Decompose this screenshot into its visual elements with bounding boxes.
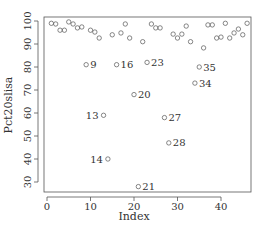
data-point [236,27,240,31]
point-label: 20 [138,89,151,100]
data-point [93,30,97,34]
data-point [154,26,158,30]
y-tick-label: 90 [22,38,33,51]
data-point [158,26,162,30]
point-label: 14 [90,154,103,165]
data-point [114,62,118,66]
data-point [67,20,71,24]
y-tick-label: 30 [22,176,33,189]
plot-frame [44,17,251,192]
y-tick-label: 40 [22,153,33,166]
point-label: 35 [203,62,216,73]
data-point [145,60,149,64]
data-point [171,32,175,36]
data-point [162,115,166,119]
y-tick-label: 80 [22,61,33,74]
scatter-chart: 30405060708090100 010203040 913141620212… [0,0,263,232]
data-point [71,22,75,26]
y-tick-label: 60 [22,107,33,120]
data-point [241,33,245,37]
y-axis-label: Pct20slisa [2,76,15,133]
point-label: 16 [121,59,134,70]
data-point [132,92,136,96]
data-point [75,26,79,30]
data-point [58,28,62,32]
data-point [149,22,153,26]
data-point [119,31,123,35]
x-tick-label: 40 [215,201,228,212]
data-point [201,46,205,50]
data-point [62,28,66,32]
point-label: 9 [90,59,96,70]
data-point [188,40,192,44]
data-point [210,23,214,27]
point-label: 27 [168,112,181,123]
point-label: 23 [151,57,164,68]
y-tick-label: 70 [22,84,33,97]
data-point [101,113,105,117]
point-label: 21 [142,181,155,192]
data-point [141,40,145,44]
data-point [84,62,88,66]
x-axis-label: Index [118,210,150,223]
data-point [197,65,201,69]
data-point [88,28,92,32]
point-label: 13 [86,110,99,121]
y-axis: 30405060708090100 [22,11,38,188]
data-point [167,141,171,145]
data-point [184,24,188,28]
data-point [232,31,236,35]
x-tick-label: 10 [84,201,97,212]
data-point [97,36,101,40]
data-point [223,21,227,25]
data-point [136,184,140,188]
data-point [127,36,131,40]
data-point [80,25,84,29]
point-label: 28 [173,137,186,148]
data-point [214,36,218,40]
data-point [180,32,184,36]
data-point [193,81,197,85]
x-tick-label: 0 [44,201,50,212]
y-tick-label: 100 [22,11,33,30]
data-point [123,22,127,26]
data-point [245,21,249,25]
x-tick-label: 30 [171,201,184,212]
data-point [54,22,58,26]
data-points: 913141620212327283435 [49,20,249,192]
data-point [106,157,110,161]
data-point [206,23,210,27]
data-point [110,33,114,37]
data-point [49,21,53,25]
data-point [175,36,179,40]
point-label: 34 [199,78,212,89]
data-point [219,35,223,39]
data-point [228,36,232,40]
y-tick-label: 50 [22,130,33,143]
